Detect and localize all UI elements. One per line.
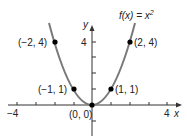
y-axis-label: y [82,19,89,30]
x-tick-label: 4 [164,108,170,119]
point-label: (2, 4) [134,37,157,48]
function-label: f(x) = x2 [119,9,154,21]
point-label: (0, 0) [69,109,92,120]
x-axis-label: x [173,108,180,119]
point-label: (1, 1) [115,84,138,95]
parabola-chart: (−2, 4) (−1, 1) (0, 0) (1, 1) (2, 4) −4 … [0,0,187,139]
point-label: (−1, 1) [38,84,67,95]
y-tick-label: 4 [81,37,87,48]
point-label: (−2, 4) [18,37,47,48]
x-tick-label: −4 [7,108,19,119]
